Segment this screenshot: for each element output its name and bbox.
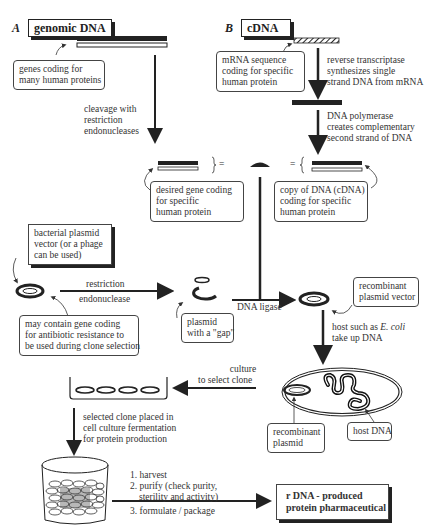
panel-a-header: A genomic DNA <box>12 18 112 36</box>
culture-label-line2: to select clone <box>198 375 252 386</box>
equals-sign-left: = <box>219 159 224 170</box>
mrna-strand <box>294 38 339 43</box>
note-line: plasmid <box>273 438 319 449</box>
plasmid-gap-note: plasmid with a "gap" <box>181 313 234 343</box>
desired-gene-strands <box>158 157 216 173</box>
mrna-sequence-note: mRNA sequence coding for specific human … <box>216 51 305 92</box>
note-line: for antibiotic resistance to <box>25 330 133 341</box>
e-coli-text: E. coli <box>380 322 405 332</box>
note-line: plasmid <box>187 317 228 328</box>
panel-b-title: cDNA <box>241 19 291 37</box>
label-line: cell culture fermentation <box>83 423 176 434</box>
single-strand-dna <box>292 100 342 105</box>
host-dna-note: host DNA <box>347 422 392 441</box>
note-line: many human proteins <box>19 75 99 86</box>
dna-ligase-label: DNA ligase <box>237 302 282 313</box>
note-line: human protein <box>156 207 238 218</box>
cell-plasmid <box>284 385 310 395</box>
panel-b-letter: B <box>225 21 233 35</box>
label-line: endonucleases <box>84 126 139 137</box>
note-line: can be used) <box>34 250 106 261</box>
host-uptake-label: host such as E. coli take up DNA <box>332 322 405 344</box>
step-formulate: 3. formulate / package <box>130 506 215 517</box>
panel-b-header: B cDNA <box>225 18 291 36</box>
label-line: selected clone placed in <box>83 412 176 423</box>
note-line: may contain gene coding <box>25 319 133 330</box>
equals-sign-right: = <box>290 159 295 170</box>
panel-a-letter: A <box>12 21 20 35</box>
note-line: with a "gap" <box>187 328 228 339</box>
host-dna-pointer <box>366 410 374 422</box>
label-line: reverse transcriptase <box>327 55 423 66</box>
culture-plate <box>70 377 167 399</box>
label-line: second strand of DNA <box>327 133 415 144</box>
note-line: desired gene coding <box>156 185 238 196</box>
note-line: mRNA sequence <box>222 55 299 66</box>
reverse-transcriptase-label: reverse transcriptase synthesizes single… <box>327 55 423 88</box>
cdna-copy-note: copy of DNA (cDNA) coding for specific h… <box>274 181 368 222</box>
label-line: creates complementary <box>327 122 415 133</box>
step-purify: 2. purify (check purity, <box>130 481 218 492</box>
note-line: be used during clone selection <box>25 341 133 352</box>
fermentation-vessel <box>42 457 108 524</box>
host-text: host such as <box>332 322 380 332</box>
recombinant-vector-note: recombinant plasmid vector <box>353 277 419 307</box>
product-line: protein pharmaceutical <box>286 502 379 514</box>
label-line: host such as E. coli <box>332 322 405 333</box>
label-line: synthesizes single <box>327 66 423 77</box>
label-line: culture <box>218 364 268 375</box>
resistance-pointer-arrow <box>52 297 68 316</box>
panel-a-title: genomic DNA <box>28 19 112 37</box>
note-line: coding for specific <box>280 196 362 207</box>
recombinant-pointer-arrow <box>333 305 352 313</box>
note-line: recombinant <box>273 427 319 438</box>
note-line: recombinant <box>359 281 413 292</box>
bacterial-plasmid-note: bacterial plasmid vector (or a phage can… <box>28 224 112 265</box>
cdna-strands <box>300 157 362 173</box>
restriction-label-top: restriction <box>86 279 125 290</box>
gene-fragment <box>250 163 270 168</box>
antibiotic-resistance-note: may contain gene coding for antibiotic r… <box>19 315 139 356</box>
process-steps-top: 1. harvest 2. purify (check purity, ster… <box>130 470 218 503</box>
label-line: cleavage with <box>84 104 139 115</box>
bacterial-plasmid-ring <box>17 285 43 297</box>
note-line: vector (or a phage <box>34 239 106 250</box>
label-line: for protein production <box>83 434 176 445</box>
genomic-dna-strands <box>77 36 167 47</box>
note-line: for specific <box>156 196 238 207</box>
genes-pointer-arrow <box>56 45 65 55</box>
step-purify-cont: sterility and activity) <box>130 492 218 503</box>
label-line: DNA polymerase <box>327 111 415 122</box>
dna-polymerase-label: DNA polymerase creates complementary sec… <box>327 111 415 144</box>
selected-clone-label: selected clone placed in cell culture fe… <box>83 412 176 445</box>
label-line: strand DNA from mRNA <box>327 77 423 88</box>
note-line: genes coding for <box>19 64 99 75</box>
note-line: human protein <box>222 77 299 88</box>
gapped-plasmid <box>194 278 216 300</box>
step-harvest: 1. harvest <box>130 470 218 481</box>
note-line: human protein <box>280 207 362 218</box>
note-line: plasmid vector <box>359 292 413 303</box>
note-line: bacterial plasmid <box>34 228 106 239</box>
label-line: take up DNA <box>332 333 405 344</box>
desired-gene-note: desired gene coding for specific human p… <box>150 181 244 222</box>
note-line: copy of DNA (cDNA) <box>280 185 362 196</box>
label-line: restriction <box>84 115 139 126</box>
final-product-box: r DNA - produced protein pharmaceutical <box>276 484 389 520</box>
vector-pointer-arrow <box>13 258 17 282</box>
host-dna-coil <box>325 375 368 409</box>
cleavage-label: cleavage with restriction endonucleases <box>84 104 139 137</box>
genes-coding-note: genes coding for many human proteins <box>13 60 105 90</box>
recombinant-plasmid-ring <box>300 293 328 305</box>
product-line: r DNA - produced <box>286 490 379 502</box>
cell-recombinant-plasmid-note: recombinant plasmid <box>267 423 325 453</box>
note-line: coding for specific <box>222 66 299 77</box>
culture-label: culture <box>218 364 268 375</box>
restriction-label-bottom: endonuclease <box>79 294 130 305</box>
